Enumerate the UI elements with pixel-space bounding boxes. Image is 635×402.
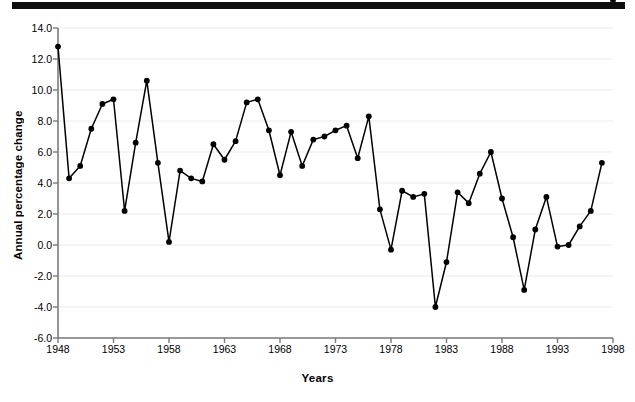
data-point [288,129,294,135]
data-point [244,100,250,106]
x-tick-label: 1998 [601,343,624,355]
data-point [322,134,328,140]
data-point [77,163,83,169]
y-tick-label: 2.0 [37,209,52,220]
x-tick-label: 1983 [435,343,458,355]
y-tick-label: 8.0 [37,116,52,127]
data-point [344,123,350,129]
data-point [444,259,450,265]
data-point [199,179,205,185]
data-point [577,224,583,230]
x-tick-label: 1968 [268,343,291,355]
data-point [355,155,361,161]
y-tick-label: 0.0 [37,240,52,251]
data-point [233,138,239,144]
data-point [544,194,550,200]
x-tick-label: 1958 [157,343,180,355]
data-point [388,247,394,253]
data-point [333,127,339,133]
x-tick-label: 1988 [490,343,513,355]
y-tick-label: -2.0 [34,271,52,282]
x-tick-label: 1963 [213,343,236,355]
data-point [299,163,305,169]
x-tick-label: 1953 [102,343,125,355]
data-point [188,175,194,181]
data-point [466,200,472,206]
data-point [377,206,383,212]
data-point [410,194,416,200]
data-point [399,188,405,194]
chart-figure: Annual percentage change Years 14.012.01… [0,0,635,402]
plot-area [0,0,635,402]
data-point [455,189,461,195]
y-tick-label: 4.0 [37,178,52,189]
y-tick-label: 14.0 [32,23,52,34]
y-tick-label: 6.0 [37,147,52,158]
data-point [510,234,516,240]
data-point [122,208,128,214]
x-axis-title: Years [0,372,635,384]
y-tick-label: 10.0 [32,85,52,96]
x-tick-label: 1978 [379,343,402,355]
data-point [433,304,439,310]
data-series-line [58,47,602,307]
x-tick-label: 1973 [324,343,347,355]
data-point [532,227,538,233]
data-point [555,244,561,250]
x-tick-label: 1948 [46,343,69,355]
data-point [100,101,106,107]
data-point [588,208,594,214]
data-point [477,171,483,177]
data-point [166,239,172,245]
data-point [177,168,183,174]
y-tick-label: 12.0 [32,54,52,65]
data-point [521,287,527,293]
data-point [366,113,372,119]
x-tick-label: 1993 [546,343,569,355]
data-point [211,141,217,147]
data-point [310,137,316,143]
data-point [88,126,94,132]
data-point [111,96,117,102]
data-point [144,78,150,84]
y-axis-title: Annual percentage change [9,60,27,310]
data-point [155,160,161,166]
data-point [277,172,283,178]
data-point [255,96,261,102]
data-point [66,175,72,181]
data-point [222,157,228,163]
data-point [421,191,427,197]
data-point [499,196,505,202]
y-tick-label: -4.0 [34,302,52,313]
data-point [599,160,605,166]
data-point [266,127,272,133]
data-point [133,140,139,146]
top-rule-decoration [12,2,625,9]
data-point [55,44,61,50]
y-tick-label: -6.0 [34,333,52,344]
data-point [488,149,494,155]
data-point [566,242,572,248]
